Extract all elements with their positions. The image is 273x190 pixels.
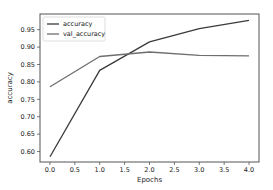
x-tick-label: 2.5: [169, 166, 179, 174]
y-tick-label: 0.70: [21, 113, 35, 121]
x-tick-label: 3.0: [194, 166, 204, 174]
y-tick-label: 0.80: [21, 78, 35, 86]
y-tick-label: 0.65: [21, 130, 35, 138]
y-tick-label: 0.90: [21, 43, 35, 51]
x-tick-label: 1.5: [119, 166, 129, 174]
legend-label: val_accuracy: [63, 30, 105, 38]
x-axis-label: Epochs: [137, 176, 162, 184]
y-tick-label: 0.85: [21, 61, 35, 69]
x-tick-label: 0.0: [45, 166, 55, 174]
y-tick-label: 0.75: [21, 96, 35, 104]
legend-label: accuracy: [63, 20, 92, 28]
x-tick-label: 4.0: [244, 166, 254, 174]
chart: 0.00.51.01.52.02.53.03.54.00.600.650.700…: [0, 0, 273, 190]
x-tick-label: 0.5: [70, 166, 80, 174]
x-tick-label: 1.0: [95, 166, 105, 174]
y-tick-label: 0.95: [21, 26, 35, 34]
y-axis-label: accuracy: [6, 72, 14, 104]
y-tick-label: 0.60: [21, 148, 35, 156]
legend: accuracyval_accuracy: [43, 17, 105, 41]
x-tick-label: 3.5: [219, 166, 229, 174]
x-tick-label: 2.0: [144, 166, 154, 174]
